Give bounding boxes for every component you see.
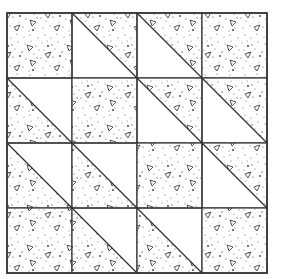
- quilt-cell: [202, 13, 267, 78]
- speckled-patch: [202, 13, 267, 78]
- quilt-cell: [137, 78, 202, 143]
- quilt-cell: [7, 143, 72, 208]
- speckled-patch: [202, 208, 267, 273]
- speckled-patch: [72, 78, 137, 143]
- quilt-cell: [7, 13, 72, 78]
- quilt-cell: [72, 208, 137, 273]
- quilt-cell: [202, 208, 267, 273]
- quilt-cell: [7, 78, 72, 143]
- quilt-cell: [202, 78, 267, 143]
- speckled-patch: [7, 13, 72, 78]
- quilt-cell: [137, 208, 202, 273]
- quilt-block: [0, 0, 283, 279]
- speckled-patch: [137, 143, 202, 208]
- speckled-patch: [7, 208, 72, 273]
- quilt-cell: [137, 143, 202, 208]
- quilt-cell: [7, 208, 72, 273]
- quilt-cell: [72, 13, 137, 78]
- quilt-cell: [72, 78, 137, 143]
- quilt-cell: [137, 13, 202, 78]
- quilt-cell: [202, 143, 267, 208]
- quilt-cells: [7, 13, 267, 273]
- quilt-cell: [72, 143, 137, 208]
